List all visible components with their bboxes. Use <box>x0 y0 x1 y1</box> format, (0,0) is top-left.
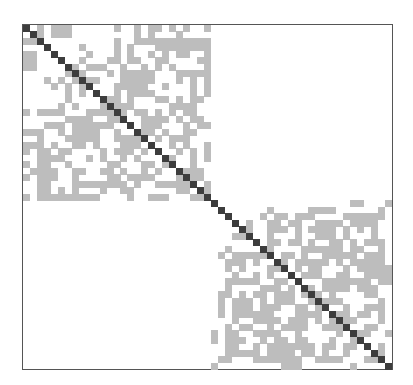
matrix-cell <box>315 226 322 233</box>
matrix-cell <box>37 135 44 142</box>
matrix-cell <box>148 38 155 45</box>
matrix-cell <box>58 155 65 162</box>
matrix-cell <box>267 272 274 279</box>
matrix-cell <box>107 181 114 188</box>
matrix-cell <box>127 194 134 201</box>
matrix-cell <box>343 265 350 272</box>
matrix-cell <box>72 142 79 149</box>
matrix-cell <box>37 109 44 116</box>
matrix-cell <box>364 311 371 318</box>
matrix-cell <box>329 252 336 259</box>
matrix-cell <box>364 291 371 298</box>
matrix-cell <box>288 239 295 246</box>
matrix-cell <box>148 90 155 97</box>
matrix-cell <box>93 181 100 188</box>
matrix-cell <box>51 174 58 181</box>
figure-canvas <box>0 0 413 385</box>
matrix-cell <box>350 220 357 227</box>
matrix-cell <box>141 90 148 97</box>
matrix-cell <box>23 109 30 116</box>
matrix-cell <box>100 155 107 162</box>
matrix-cell <box>343 213 350 220</box>
matrix-cell <box>350 363 357 370</box>
matrix-cell <box>246 252 253 259</box>
matrix-cell <box>162 116 169 123</box>
diagonal-cell <box>93 90 100 97</box>
matrix-cell <box>72 77 79 84</box>
matrix-cell <box>295 265 302 272</box>
diagonal-cell <box>141 135 148 142</box>
matrix-cell <box>114 148 121 155</box>
matrix-cell <box>114 25 121 32</box>
matrix-cell <box>58 77 65 84</box>
matrix-cell <box>253 259 260 266</box>
diagonal-cell <box>336 317 343 324</box>
matrix-cell <box>183 25 190 32</box>
matrix-cell <box>72 116 79 123</box>
matrix-cell <box>141 148 148 155</box>
matrix-cell <box>218 311 225 318</box>
matrix-cell <box>169 181 176 188</box>
matrix-cell <box>385 200 392 207</box>
matrix-cell <box>114 161 121 168</box>
matrix-cell <box>232 350 239 357</box>
matrix-cell <box>322 343 329 350</box>
matrix-cell <box>127 77 134 84</box>
matrix-cell <box>371 356 378 363</box>
matrix-cell <box>267 356 274 363</box>
matrix-cell <box>239 311 246 318</box>
matrix-cell <box>176 116 183 123</box>
diagonal-cell <box>267 252 274 259</box>
matrix-cell <box>378 317 385 324</box>
diagonal-cell <box>218 207 225 214</box>
matrix-cell <box>176 181 183 188</box>
matrix-cell <box>134 142 141 149</box>
diagonal-cell <box>385 363 392 370</box>
matrix-cell <box>315 317 322 324</box>
matrix-cell <box>315 356 322 363</box>
matrix-cell <box>79 44 86 51</box>
matrix-cell <box>197 122 204 129</box>
matrix-cell <box>148 174 155 181</box>
matrix-cell <box>169 25 176 32</box>
matrix-cell <box>190 194 197 201</box>
diagonal-cell <box>343 324 350 331</box>
matrix-cell <box>378 213 385 220</box>
matrix-cell <box>162 194 169 201</box>
diagonal-cell <box>134 129 141 136</box>
matrix-cell <box>322 226 329 233</box>
matrix-cell <box>176 77 183 84</box>
matrix-cell <box>134 109 141 116</box>
matrix-cell <box>274 285 281 292</box>
adjacency-matrix <box>22 24 393 370</box>
matrix-cell <box>274 356 281 363</box>
matrix-cell <box>322 207 329 214</box>
matrix-cell <box>308 246 315 253</box>
matrix-cell <box>65 70 72 77</box>
matrix-cell <box>190 148 197 155</box>
matrix-cell <box>308 350 315 357</box>
matrix-cell <box>267 311 274 318</box>
matrix-cell <box>86 64 93 71</box>
matrix-cell <box>197 194 204 201</box>
matrix-cell <box>155 44 162 51</box>
matrix-cell <box>120 155 127 162</box>
diagonal-cell <box>322 304 329 311</box>
matrix-cell <box>162 57 169 64</box>
matrix-cell <box>301 304 308 311</box>
diagonal-cell <box>246 233 253 240</box>
diagonal-cell <box>79 77 86 84</box>
matrix-cell <box>274 330 281 337</box>
matrix-cell <box>197 57 204 64</box>
matrix-cell <box>295 363 302 370</box>
matrix-cell <box>378 259 385 266</box>
matrix-cell <box>190 168 197 175</box>
matrix-cell <box>155 194 162 201</box>
matrix-cell <box>329 356 336 363</box>
matrix-cell <box>93 194 100 201</box>
matrix-cell <box>176 103 183 110</box>
matrix-cell <box>23 174 30 181</box>
matrix-cell <box>288 324 295 331</box>
matrix-cell <box>162 181 169 188</box>
diagonal-cell <box>357 337 364 344</box>
